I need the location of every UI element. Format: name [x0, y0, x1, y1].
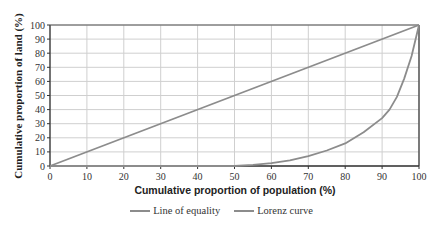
svg-text:70: 70 [303, 171, 313, 182]
legend-item-equality: Line of equality [130, 205, 220, 216]
x-axis-label: Cumulative proportion of population (%) [134, 184, 335, 196]
legend-item-lorenz: Lorenz curve [234, 205, 313, 216]
legend-label: Line of equality [153, 205, 220, 216]
svg-text:20: 20 [119, 171, 129, 182]
svg-text:80: 80 [340, 171, 350, 182]
svg-text:10: 10 [82, 171, 92, 182]
legend-line-icon [130, 210, 150, 212]
svg-text:70: 70 [35, 62, 45, 73]
legend-line-icon [234, 210, 254, 212]
svg-text:80: 80 [35, 48, 45, 59]
svg-text:0: 0 [40, 161, 45, 172]
svg-text:90: 90 [377, 171, 387, 182]
svg-text:40: 40 [35, 104, 45, 115]
legend: Line of equality Lorenz curve [0, 205, 443, 216]
svg-text:0: 0 [48, 171, 53, 182]
svg-text:60: 60 [35, 76, 45, 87]
svg-text:10: 10 [35, 146, 45, 157]
legend-label: Lorenz curve [257, 205, 313, 216]
svg-text:100: 100 [30, 20, 45, 31]
svg-text:100: 100 [412, 171, 427, 182]
svg-text:30: 30 [156, 171, 166, 182]
lorenz-chart: 0102030405060708090100 01020304050607080… [0, 0, 443, 205]
svg-text:30: 30 [35, 118, 45, 129]
svg-text:40: 40 [193, 171, 203, 182]
svg-text:90: 90 [35, 34, 45, 45]
y-axis-label: Cumulative proportion of land (%) [12, 13, 25, 179]
x-axis-ticks: 0102030405060708090100 [48, 166, 427, 182]
y-axis-ticks: 0102030405060708090100 [30, 20, 50, 172]
svg-text:50: 50 [230, 171, 240, 182]
svg-text:60: 60 [266, 171, 276, 182]
svg-text:20: 20 [35, 132, 45, 143]
svg-text:50: 50 [35, 90, 45, 101]
